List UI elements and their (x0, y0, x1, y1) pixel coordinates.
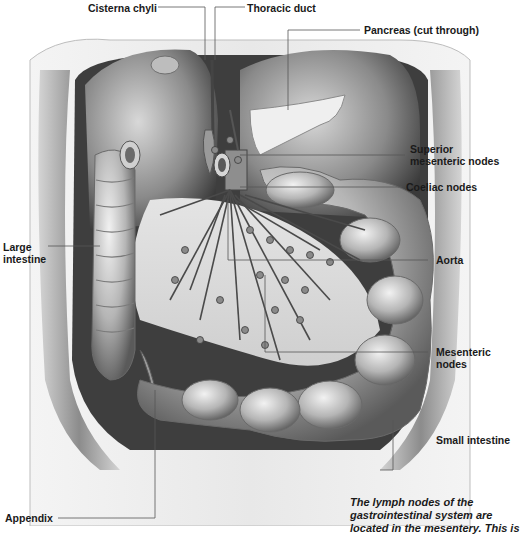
large-intestine (92, 141, 140, 380)
label-line: nodes (436, 358, 491, 370)
label-line: Mesenteric (436, 346, 491, 358)
label-pancreas: Pancreas (cut through) (364, 24, 479, 36)
label-appendix: Appendix (5, 512, 53, 524)
label-line: Large (3, 241, 46, 253)
caption-line: located in the mesentery. This is (350, 522, 520, 535)
label-thoracic-duct: Thoracic duct (247, 2, 316, 14)
label-line: intestine (3, 253, 46, 265)
label-aorta: Aorta (436, 254, 463, 266)
label-large-intestine: Large intestine (3, 241, 46, 265)
label-line: mesenteric nodes (410, 155, 499, 167)
caption-line: The lymph nodes of the (350, 496, 520, 509)
label-coeliac-nodes: Coeliac nodes (406, 181, 477, 193)
caption-line: gastrointestinal system are (350, 509, 520, 522)
label-cisterna-chyli: Cisterna chyli (88, 2, 157, 14)
figure-caption: The lymph nodes of the gastrointestinal … (350, 496, 520, 535)
label-mesenteric-nodes: Mesenteric nodes (436, 346, 491, 370)
label-superior-mesenteric-nodes: Superior mesenteric nodes (410, 143, 499, 167)
label-small-intestine: Small intestine (436, 434, 510, 446)
label-line: Superior (410, 143, 499, 155)
